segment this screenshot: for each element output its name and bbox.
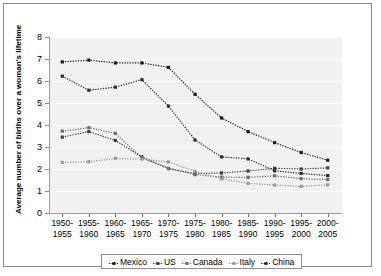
legend-label: China (272, 257, 294, 267)
series-marker-canada (300, 177, 303, 180)
y-tick-label: 8 (28, 33, 42, 42)
chart-frame: Average number of births over a woman's … (3, 3, 372, 267)
series-marker-canada (326, 178, 329, 181)
legend-swatch-icon (182, 261, 191, 262)
series-marker-italy (167, 160, 170, 163)
series-marker-mexico (246, 130, 249, 133)
x-tick-mark (89, 214, 90, 217)
y-axis-title-wrap: Average number of births over a woman's … (12, 34, 26, 214)
series-marker-italy (114, 157, 117, 160)
series-marker-italy (273, 183, 276, 186)
y-tick-mark (45, 147, 49, 148)
y-tick-mark (45, 213, 49, 214)
series-marker-canada (193, 173, 196, 176)
y-tick-mark (45, 169, 49, 170)
series-marker-italy (140, 158, 143, 161)
series-marker-italy (326, 183, 329, 186)
x-tick-mark (222, 214, 223, 217)
series-marker-mexico (300, 151, 303, 154)
series-marker-mexico (273, 141, 276, 144)
y-tick-label: 5 (28, 99, 42, 108)
series-marker-italy (220, 177, 223, 180)
y-tick-label: 0 (28, 209, 42, 218)
series-marker-china (220, 155, 223, 158)
series-marker-us (220, 171, 223, 174)
series-marker-mexico (87, 59, 90, 62)
series-marker-china (193, 138, 196, 141)
series-marker-us (246, 169, 249, 172)
legend-swatch-icon (261, 261, 270, 262)
series-marker-china (114, 86, 117, 89)
series-marker-mexico (193, 93, 196, 96)
legend-item-mexico[interactable]: Mexico (109, 257, 147, 267)
series-marker-canada (246, 176, 249, 179)
x-tick-mark (195, 214, 196, 217)
series-layer (49, 37, 341, 213)
series-marker-mexico (140, 61, 143, 64)
series-marker-mexico (326, 159, 329, 162)
y-tick-mark (45, 59, 49, 60)
series-marker-italy (87, 160, 90, 163)
series-marker-italy (300, 185, 303, 188)
legend-swatch-icon (109, 261, 118, 262)
series-marker-china (246, 157, 249, 160)
legend-item-canada[interactable]: Canada (182, 257, 223, 267)
legend-label: US (164, 257, 176, 267)
series-marker-canada (87, 126, 90, 129)
y-tick-mark (45, 125, 49, 126)
series-marker-china (140, 78, 143, 81)
series-marker-mexico (61, 60, 64, 63)
series-marker-us (61, 136, 64, 139)
series-marker-china (326, 174, 329, 177)
x-tick-mark (248, 214, 249, 217)
y-tick-label: 2 (28, 165, 42, 174)
plot-area (49, 37, 341, 213)
chart-legend: MexicoUSCanadaItalyChina (101, 254, 302, 269)
series-marker-italy (61, 161, 64, 164)
series-marker-us (326, 166, 329, 169)
x-tick-mark (142, 214, 143, 217)
x-tick-mark (328, 214, 329, 217)
series-marker-canada (167, 167, 170, 170)
series-marker-mexico (167, 66, 170, 69)
y-tick-mark (45, 37, 49, 38)
series-marker-mexico (114, 61, 117, 64)
series-marker-china (61, 75, 64, 78)
y-tick-label: 4 (28, 121, 42, 130)
series-marker-china (167, 104, 170, 107)
x-tick-mark (115, 214, 116, 217)
y-tick-mark (45, 191, 49, 192)
legend-item-china[interactable]: China (261, 257, 294, 267)
y-tick-label: 1 (28, 187, 42, 196)
series-marker-china (300, 172, 303, 175)
x-tick-mark (301, 214, 302, 217)
x-tick-mark (275, 214, 276, 217)
series-marker-italy (193, 170, 196, 173)
x-tick-mark (168, 214, 169, 217)
series-marker-canada (114, 132, 117, 135)
series-marker-canada (273, 174, 276, 177)
y-axis-title: Average number of births over a woman's … (12, 34, 26, 214)
series-line-mexico (62, 60, 327, 160)
legend-label: Italy (240, 257, 256, 267)
x-tick-label: 2000- 2005 (308, 218, 348, 239)
y-tick-label: 7 (28, 55, 42, 64)
series-marker-canada (61, 130, 64, 133)
y-tick-mark (45, 81, 49, 82)
series-line-us (62, 132, 327, 174)
legend-swatch-icon (153, 261, 162, 262)
legend-label: Canada (193, 257, 223, 267)
legend-swatch-icon (229, 261, 238, 262)
x-tick-mark (62, 214, 63, 217)
series-marker-us (114, 139, 117, 142)
y-tick-mark (45, 103, 49, 104)
y-tick-label: 6 (28, 77, 42, 86)
series-marker-mexico (220, 116, 223, 119)
legend-label: Mexico (120, 257, 147, 267)
series-marker-china (273, 169, 276, 172)
legend-item-italy[interactable]: Italy (229, 257, 256, 267)
series-marker-us (300, 167, 303, 170)
series-marker-italy (246, 182, 249, 185)
legend-item-us[interactable]: US (153, 257, 176, 267)
y-tick-label: 3 (28, 143, 42, 152)
